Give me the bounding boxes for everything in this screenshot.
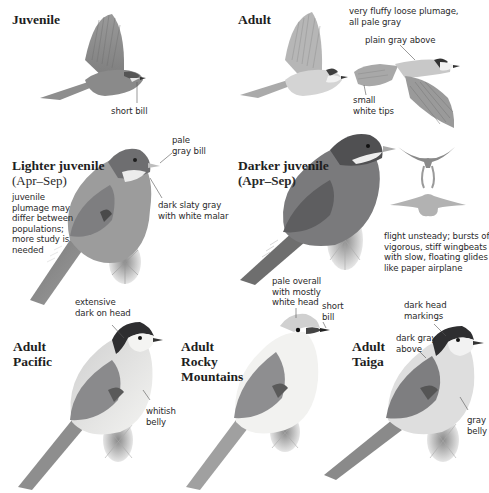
label-short-bill: short bill xyxy=(111,106,147,117)
leader-line xyxy=(400,45,415,60)
label-fluffy-plumage: very fluffy loose plumage, all pale gray xyxy=(349,6,459,27)
leader-line xyxy=(160,153,172,163)
label-pale-overall: pale overall with mostly white head xyxy=(272,276,321,308)
flight-silhouette-front xyxy=(398,147,455,188)
section-title-darker-juvenile: Darker juvenile xyxy=(238,158,329,173)
label-dark-head-markings: dark head markings xyxy=(404,300,447,321)
note-juvenile-plumage: juvenile plumage may differ between popu… xyxy=(12,192,73,256)
leader-line xyxy=(323,322,326,328)
section-subtitle-darker-juvenile: (Apr–Sep) xyxy=(238,173,296,188)
label-dark-gray-above: dark gray above xyxy=(396,333,436,354)
label-gray-belly: gray belly xyxy=(467,415,487,436)
flight-silhouette-top xyxy=(390,194,466,216)
label-extensive-dark-head: extensive dark on head xyxy=(75,297,131,318)
label-pale-gray-bill: pale gray bill xyxy=(172,135,206,156)
leader-line xyxy=(364,85,366,95)
section-title-adult: Adult xyxy=(238,12,271,27)
label-whitish-belly: whitish belly xyxy=(146,406,176,427)
darker-juvenile-bird xyxy=(240,134,396,285)
section-title-lighter-juvenile: Lighter juvenile xyxy=(12,158,104,173)
section-title-adult-pacific: Adult Pacific xyxy=(13,339,52,369)
label-small-white-tips: small white tips xyxy=(353,95,394,116)
label-plain-gray-above: plain gray above xyxy=(365,35,436,46)
label-dark-slaty-gray: dark slaty gray with white malar xyxy=(158,200,228,221)
section-title-adult-taiga: Adult Taiga xyxy=(352,339,385,369)
field-guide-plate: Juvenile short bill Adult very fluffy lo… xyxy=(0,0,489,493)
note-flight-behavior: flight unsteady; bursts of vigorous, sti… xyxy=(384,231,489,273)
label-short-bill-rocky: short bill xyxy=(322,301,344,322)
section-title-juvenile: Juvenile xyxy=(12,12,60,27)
adult-flight-bird-right xyxy=(354,58,460,128)
leader-line xyxy=(150,178,162,198)
section-subtitle-lighter-juvenile: (Apr–Sep) xyxy=(12,173,67,188)
section-title-adult-rocky: Adult Rocky Mountains xyxy=(181,339,243,384)
